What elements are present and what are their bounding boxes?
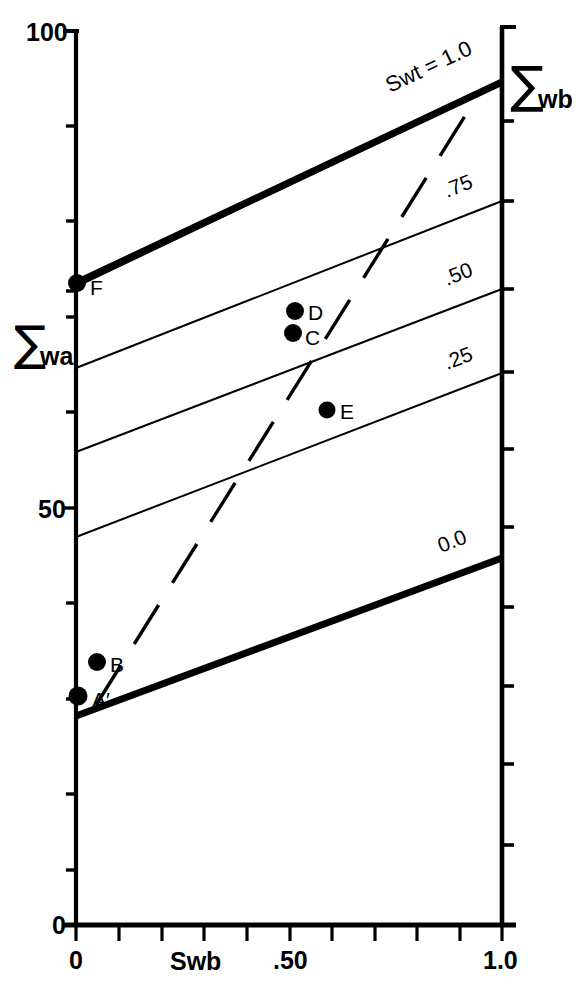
chart-figure: F B A′ D C E Swt = 1.0 .75 .50 .25 0.0 1… [0, 0, 587, 984]
chart-svg: F B A′ D C E Swt = 1.0 .75 .50 .25 0.0 1… [0, 0, 587, 984]
contour-label-0-25: .25 [440, 342, 476, 374]
y-axis-title-left: ∑ wa [14, 315, 74, 371]
contour-label-0-0: 0.0 [434, 525, 470, 557]
contour-line-swt-1-0 [76, 82, 502, 283]
data-point-a-prime [69, 687, 88, 706]
y-axis-title-right: ∑ wb [510, 56, 573, 114]
x-axis-label-1-0: 1.0 [483, 946, 518, 974]
x-axis-label-50: .50 [273, 946, 308, 974]
data-point-f [68, 274, 86, 292]
data-point-label-f: F [90, 276, 103, 299]
x-axis-label-0: 0 [69, 946, 83, 974]
data-points [68, 274, 336, 706]
x-axis-title: Swb [170, 947, 221, 975]
data-point-b [88, 653, 106, 671]
sigma-wa-subscript: wa [39, 342, 74, 370]
data-point-label-b: B [110, 653, 124, 676]
contour-label-swt-1-0: Swt = 1.0 [381, 35, 475, 97]
data-point-label-c: C [305, 326, 320, 349]
data-point-d [286, 302, 304, 320]
data-point-c [284, 324, 302, 342]
data-point-label-d: D [308, 301, 323, 324]
contour-line-swt-0-75 [76, 201, 502, 368]
y-axis-label-100: 100 [26, 18, 68, 46]
y-axis-label-50: 50 [38, 495, 66, 523]
contour-label-0-50: .50 [440, 258, 476, 290]
data-point-label-a-prime: A′ [92, 688, 110, 711]
contour-line-swt-1-0-echo [76, 84, 502, 287]
data-point-label-e: E [340, 400, 354, 423]
sigma-wb-subscript: wb [537, 85, 573, 113]
data-point-e [319, 402, 336, 419]
y-axis-label-0: 0 [52, 911, 66, 939]
axis-frame [62, 27, 516, 926]
contour-label-0-75: .75 [440, 170, 476, 202]
